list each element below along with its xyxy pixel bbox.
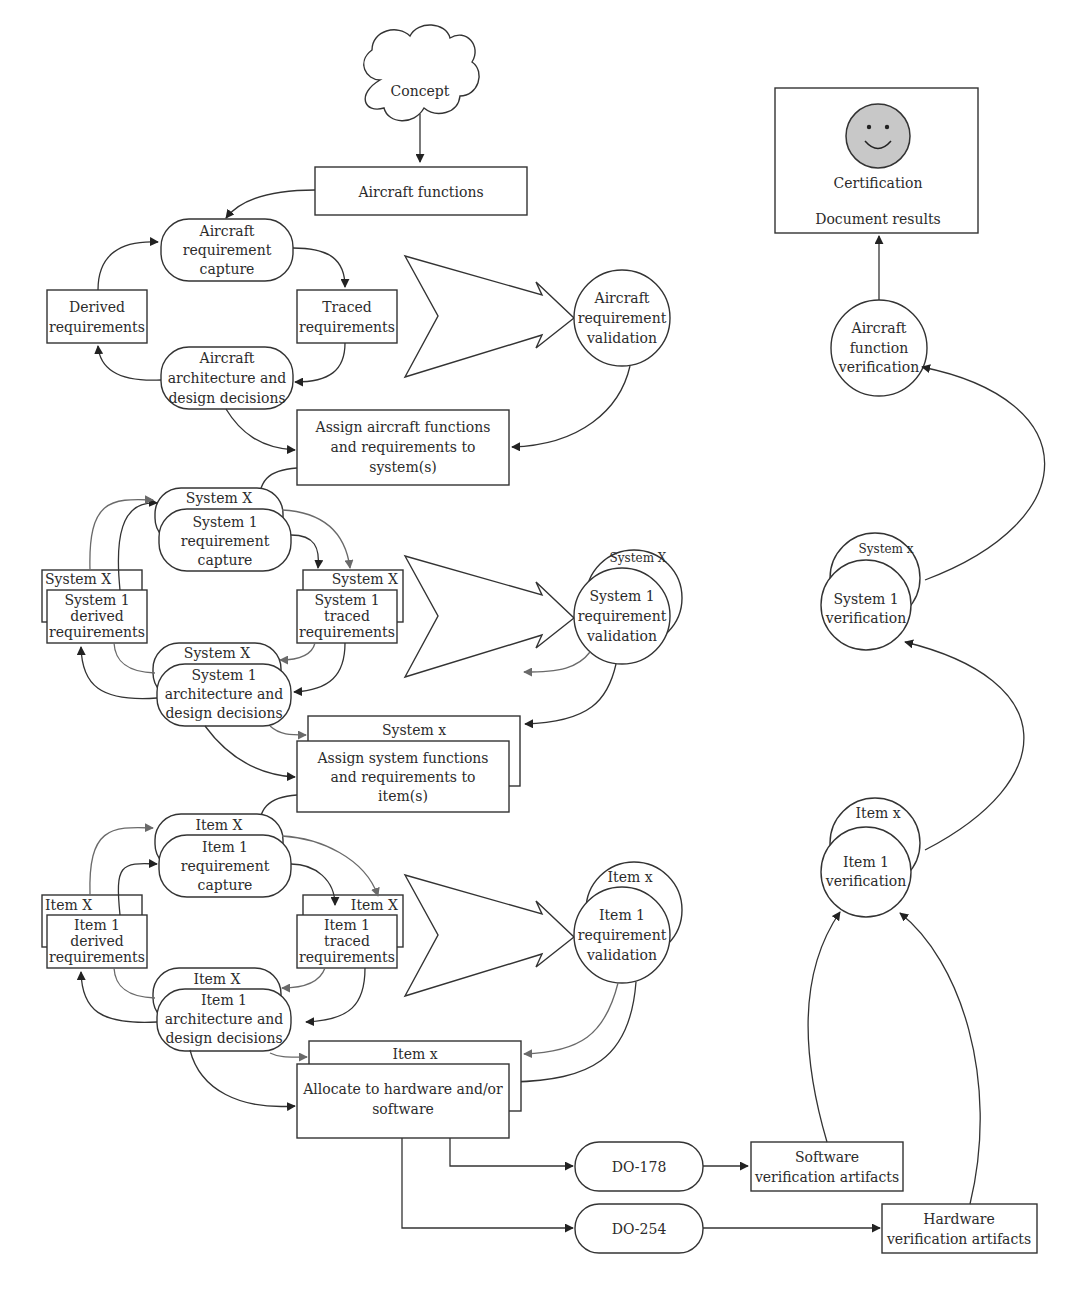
- svg-text:derived: derived: [70, 608, 124, 624]
- derived-requirements: Derived requirements: [47, 290, 147, 343]
- arrow: [205, 726, 295, 777]
- svg-text:requirement: requirement: [578, 927, 667, 943]
- svg-text:Item X: Item X: [45, 897, 92, 913]
- document-results-label: Document results: [815, 211, 941, 227]
- svg-text:capture: capture: [198, 877, 253, 893]
- validation-chevron-system: [405, 556, 574, 677]
- svg-text:Software: Software: [795, 1149, 859, 1165]
- arrow: [291, 535, 318, 568]
- svg-text:design decisions: design decisions: [165, 705, 282, 721]
- svg-text:System 1: System 1: [589, 588, 654, 604]
- arrow: [293, 248, 345, 287]
- concept-cloud: Concept: [364, 25, 479, 121]
- svg-text:item(s): item(s): [378, 788, 428, 804]
- arrow: [512, 982, 636, 1082]
- svg-text:requirement: requirement: [578, 608, 667, 624]
- svg-text:Item x: Item x: [855, 805, 900, 821]
- svg-text:requirement: requirement: [578, 310, 667, 326]
- svg-text:System 1: System 1: [191, 667, 256, 683]
- concept-label: Concept: [391, 83, 450, 99]
- arrow: [282, 836, 378, 896]
- system-verification-stack: System x System 1 verification: [821, 533, 920, 650]
- svg-text:capture: capture: [198, 552, 253, 568]
- svg-text:System X: System X: [184, 645, 250, 661]
- svg-text:Aircraft: Aircraft: [199, 350, 255, 366]
- svg-text:Item X: Item X: [193, 971, 240, 987]
- svg-text:System x: System x: [858, 542, 913, 556]
- line: [114, 968, 155, 998]
- traced-requirements: Traced requirements: [297, 290, 397, 343]
- svg-text:traced: traced: [324, 933, 370, 949]
- arrow: [525, 664, 616, 724]
- arrow: [98, 346, 161, 380]
- svg-text:Derived: Derived: [69, 299, 125, 315]
- svg-text:validation: validation: [586, 330, 657, 346]
- item-capture-stack: Item X Item 1 requirement capture: [155, 814, 291, 897]
- svg-text:Item 1: Item 1: [843, 854, 889, 870]
- svg-text:Aircraft functions: Aircraft functions: [357, 184, 483, 200]
- arrow: [905, 642, 1024, 850]
- svg-text:Assign aircraft functions: Assign aircraft functions: [315, 419, 491, 435]
- assign-system-functions-stack: System x Assign system functions and req…: [297, 716, 520, 812]
- svg-text:system(s): system(s): [369, 459, 437, 475]
- svg-text:and requirements to: and requirements to: [330, 439, 475, 455]
- svg-text:requirement: requirement: [183, 242, 272, 258]
- arrow: [808, 912, 840, 1142]
- svg-text:validation: validation: [586, 628, 657, 644]
- svg-text:System 1: System 1: [64, 592, 129, 608]
- arrow: [294, 643, 345, 692]
- do-254-standard: DO-254: [575, 1204, 703, 1253]
- svg-text:DO-178: DO-178: [612, 1159, 667, 1175]
- arrow: [190, 1050, 295, 1107]
- svg-text:verification: verification: [838, 359, 919, 375]
- svg-text:architecture and: architecture and: [168, 370, 287, 386]
- item-verification-stack: Item x Item 1 verification: [821, 798, 920, 917]
- aircraft-requirement-capture: Aircraft requirement capture: [161, 219, 293, 281]
- aircraft-function-verification: Aircraft function verification: [831, 300, 927, 396]
- arrow: [282, 510, 350, 568]
- svg-text:derived: derived: [70, 933, 124, 949]
- svg-text:verification: verification: [825, 610, 906, 626]
- svg-text:traced: traced: [324, 608, 370, 624]
- arrow: [922, 367, 1045, 580]
- svg-text:System 1: System 1: [314, 592, 379, 608]
- svg-text:validation: validation: [586, 947, 657, 963]
- arrow: [282, 968, 325, 988]
- arrow: [512, 366, 630, 447]
- svg-text:Aircraft: Aircraft: [594, 290, 650, 306]
- svg-text:Item x: Item x: [392, 1046, 437, 1062]
- svg-text:requirements: requirements: [49, 949, 145, 965]
- svg-text:and requirements to: and requirements to: [330, 769, 475, 785]
- svg-text:Item X: Item X: [351, 897, 398, 913]
- arrow: [280, 643, 315, 660]
- svg-text:Assign system functions: Assign system functions: [316, 750, 488, 766]
- validation-chevron: [405, 256, 574, 377]
- arrow: [524, 983, 618, 1054]
- svg-text:System 1: System 1: [833, 591, 898, 607]
- system-traced-stack: System X System 1 traced requirements: [297, 570, 403, 643]
- hardware-verification-artifacts: Hardware verification artifacts: [882, 1204, 1037, 1253]
- svg-text:verification artifacts: verification artifacts: [886, 1231, 1031, 1247]
- certification-label: Certification: [834, 175, 923, 191]
- arrow: [226, 190, 315, 218]
- svg-text:design decisions: design decisions: [168, 390, 285, 406]
- certification-box: Certification Document results: [775, 88, 978, 233]
- svg-text:Allocate to hardware and/or: Allocate to hardware and/or: [302, 1081, 503, 1097]
- svg-text:Item 1: Item 1: [599, 907, 645, 923]
- svg-text:System X: System X: [332, 571, 398, 587]
- svg-text:Item X: Item X: [195, 817, 242, 833]
- svg-text:System X: System X: [610, 551, 667, 565]
- svg-text:verification artifacts: verification artifacts: [754, 1169, 899, 1185]
- svg-text:capture: capture: [200, 261, 255, 277]
- system-derived-stack: System X System 1 derived requirements: [42, 570, 147, 643]
- svg-text:function: function: [850, 340, 909, 356]
- svg-text:System X: System X: [186, 490, 252, 506]
- arrow: [90, 828, 153, 895]
- svg-text:requirement: requirement: [181, 533, 270, 549]
- arrow: [306, 968, 365, 1022]
- system-capture-stack: System X System 1 requirement capture: [155, 488, 291, 571]
- svg-text:verification: verification: [825, 873, 906, 889]
- svg-text:Item 1: Item 1: [324, 917, 370, 933]
- svg-text:Hardware: Hardware: [923, 1211, 995, 1227]
- arrow: [450, 1138, 573, 1166]
